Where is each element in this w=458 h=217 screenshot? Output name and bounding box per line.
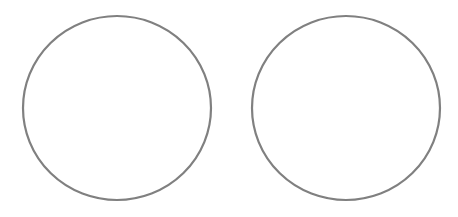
diagram-canvas — [0, 0, 458, 217]
left-circle — [23, 16, 211, 200]
right-circle — [252, 16, 440, 200]
